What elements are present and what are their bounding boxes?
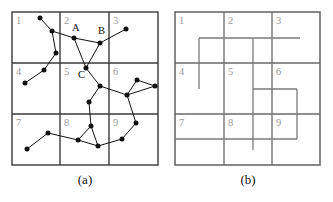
- graph-node-n14: [153, 84, 158, 89]
- graph-edge-n3-n4: [44, 53, 56, 70]
- panel-b-cell-label-8: 8: [228, 117, 233, 128]
- panel-a-caption: (a): [0, 172, 170, 188]
- graph-edge-B-C: [86, 43, 100, 68]
- panel-b-frame: [175, 12, 320, 165]
- point-label-C: C: [78, 69, 85, 80]
- graph-edge-n13-n14: [137, 80, 155, 86]
- panel-a-cell-label-1: 1: [16, 15, 21, 26]
- graph-edge-n15-n17: [91, 126, 98, 146]
- graph-edge-n16-n17: [78, 140, 98, 146]
- graph-node-n3: [54, 51, 59, 56]
- graph-edge-n20-n21: [122, 123, 136, 139]
- graph-edge-n2-n3: [52, 31, 56, 53]
- panel-a-cell-label-6: 6: [113, 66, 118, 77]
- graph-node-n12: [125, 93, 130, 98]
- panel-a-cell-label-4: 4: [16, 66, 22, 77]
- graph-edge-n18-n19: [27, 133, 48, 149]
- graph-edge-n16-n18: [48, 133, 78, 140]
- panel-b-cell-label-7: 7: [179, 117, 184, 128]
- graph-edge-n10-n12: [100, 86, 127, 95]
- panel-a-cell-label-9: 9: [113, 117, 118, 128]
- graph-node-n20: [120, 137, 125, 142]
- graph-node-n4: [42, 68, 47, 73]
- graph-edge-C-n10: [86, 68, 100, 86]
- graph-node-n19: [25, 147, 30, 152]
- graph-node-n1: [38, 16, 43, 21]
- panel-b-cell-label-2: 2: [228, 15, 233, 26]
- graph-edge-A-B: [74, 38, 100, 43]
- point-label-A: A: [72, 22, 80, 33]
- graph-node-n18: [46, 131, 51, 136]
- panel-a-cell-label-5: 5: [64, 66, 69, 77]
- panel-b-cell-label-6: 6: [276, 66, 281, 77]
- graph-node-n11: [87, 100, 92, 105]
- graph-edge-n4-n5: [25, 70, 44, 83]
- graph-node-B: [98, 41, 103, 46]
- panel-b-cell-label-9: 9: [276, 117, 281, 128]
- graph-edge-n12-n14: [127, 86, 155, 95]
- graph-node-n5: [23, 81, 28, 86]
- graph-node-n2: [50, 29, 55, 34]
- graph-edge-n1-n2: [40, 18, 52, 31]
- graph-node-n16: [76, 138, 81, 143]
- point-label-B: B: [98, 25, 105, 36]
- panel-b-cell-label-1: 1: [179, 15, 184, 26]
- graph-node-A: [72, 36, 77, 41]
- graph-node-n13: [135, 78, 140, 83]
- panel-b-cell-label-4: 4: [179, 66, 185, 77]
- panel-a-cell-label-8: 8: [64, 117, 69, 128]
- panel-b-caption: (b): [163, 172, 333, 188]
- panel-a-cell-label-7: 7: [16, 117, 21, 128]
- graph-node-n8: [124, 27, 129, 32]
- graph-edge-n21-n12: [127, 95, 136, 123]
- graph-edge-n17-n20: [98, 139, 122, 146]
- panel-b-cell-label-3: 3: [276, 15, 281, 26]
- graph-node-n15: [89, 124, 94, 129]
- panel-b-cell-label-5: 5: [228, 66, 233, 77]
- graph-node-n21: [134, 121, 139, 126]
- graph-edge-n15-n16: [78, 126, 91, 140]
- graph-edge-n2-A: [52, 31, 74, 38]
- panel-a-cell-label-3: 3: [113, 15, 118, 26]
- panel-a-cell-label-2: 2: [64, 15, 69, 26]
- figure-root: 123456789ABC123456789 (a) (b): [0, 0, 333, 202]
- graph-edge-n10-n11: [89, 86, 100, 102]
- graph-node-n10: [98, 84, 103, 89]
- graph-node-n17: [96, 144, 101, 149]
